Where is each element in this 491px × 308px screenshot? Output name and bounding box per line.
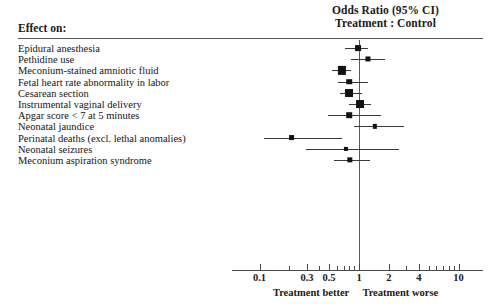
x-axis-minor-tick <box>436 266 437 270</box>
x-axis-minor-tick <box>429 266 430 270</box>
x-axis-major-tick <box>459 264 460 270</box>
point-estimate-marker <box>373 124 377 128</box>
x-axis-minor-tick <box>449 266 450 270</box>
point-estimate-marker <box>366 57 371 62</box>
x-axis-major-tick <box>307 264 308 270</box>
forest-row-label: Instrumental vaginal delivery <box>18 99 142 110</box>
forest-row: Meconium-stained amniotic fluid <box>0 65 491 76</box>
point-estimate-marker <box>347 157 352 162</box>
x-axis-major-tick <box>389 264 390 270</box>
point-estimate-marker <box>338 66 346 74</box>
forest-row-label: Meconium aspiration syndrome <box>18 155 152 166</box>
forest-row: Meconium aspiration syndrome <box>0 155 491 166</box>
x-axis-major-tick <box>260 264 261 270</box>
forest-row: Perinatal deaths (excl. lethal anomalies… <box>0 133 491 144</box>
point-estimate-marker <box>345 89 353 97</box>
point-estimate-marker <box>344 147 348 151</box>
axis-caption-right: Treatment worse <box>362 287 438 298</box>
x-axis-tick-label: 4 <box>416 272 421 283</box>
forest-rows: Epidural anesthesiaPethidine useMeconium… <box>0 0 491 308</box>
forest-row: Neonatal seizures <box>0 144 491 155</box>
x-axis-major-tick <box>329 264 330 270</box>
x-axis-minor-tick <box>354 266 355 270</box>
point-estimate-marker <box>347 112 353 118</box>
confidence-interval-line <box>354 126 404 127</box>
x-axis-major-tick <box>359 264 360 270</box>
x-axis-major-tick <box>419 264 420 270</box>
forest-row-label: Epidural anesthesia <box>18 43 100 54</box>
forest-row: Apgar score < 7 at 5 minutes <box>0 110 491 121</box>
x-axis-tick-label: 0.5 <box>322 272 335 283</box>
forest-row-label: Fetal heart rate abnormality in labor <box>18 77 169 88</box>
point-estimate-marker <box>355 45 361 51</box>
forest-row-label: Pethidine use <box>18 54 74 65</box>
forest-row-label: Neonatal seizures <box>18 144 92 155</box>
x-axis-tick-label: 0.1 <box>253 272 266 283</box>
confidence-interval-line <box>328 115 381 116</box>
x-axis-tick-label: 2 <box>386 272 391 283</box>
forest-row-label: Neonatal jaundice <box>18 121 94 132</box>
forest-row-label: Cesarean section <box>18 88 89 99</box>
forest-row-label: Apgar score < 7 at 5 minutes <box>18 110 139 121</box>
x-axis-minor-tick <box>406 266 407 270</box>
forest-row: Neonatal jaundice <box>0 121 491 132</box>
x-axis-minor-tick <box>319 266 320 270</box>
x-axis-tick-label: 0.3 <box>300 272 313 283</box>
x-axis-minor-tick <box>443 266 444 270</box>
forest-row: Epidural anesthesia <box>0 43 491 54</box>
x-axis-tick-label: 1 <box>356 272 361 283</box>
forest-row: Fetal heart rate abnormality in labor <box>0 77 491 88</box>
point-estimate-marker <box>289 135 295 141</box>
forest-row-label: Perinatal deaths (excl. lethal anomalies… <box>18 133 186 144</box>
point-estimate-marker <box>356 100 364 108</box>
forest-row: Cesarean section <box>0 88 491 99</box>
forest-plot-figure: Odds Ratio (95% CI) Treatment : Control … <box>0 0 491 308</box>
x-axis-minor-tick <box>344 266 345 270</box>
x-axis-minor-tick <box>454 266 455 270</box>
x-axis-tick-label: 10 <box>453 272 464 283</box>
forest-row-label: Meconium-stained amniotic fluid <box>18 65 159 76</box>
x-axis-line <box>232 270 483 271</box>
x-axis-minor-tick <box>337 266 338 270</box>
confidence-interval-line <box>306 149 399 150</box>
forest-row: Pethidine use <box>0 54 491 65</box>
axis-caption-left: Treatment better <box>273 287 349 298</box>
confidence-interval-line <box>264 138 342 139</box>
x-axis-minor-tick <box>349 266 350 270</box>
point-estimate-marker <box>347 79 353 85</box>
forest-row: Instrumental vaginal delivery <box>0 99 491 110</box>
confidence-interval-line <box>338 82 368 83</box>
x-axis-minor-tick <box>289 266 290 270</box>
